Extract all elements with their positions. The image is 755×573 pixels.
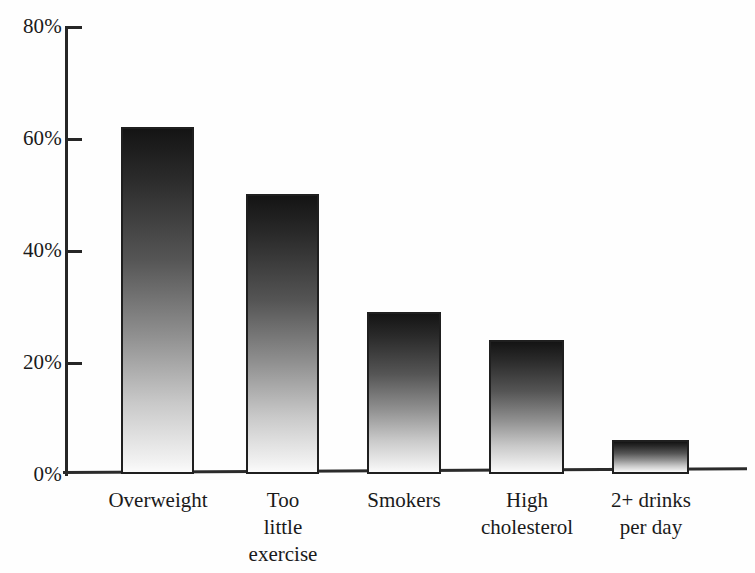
y-tick-80 xyxy=(65,26,82,29)
y-tick-label-40: 40% xyxy=(4,240,62,261)
bar-high-cholesterol xyxy=(489,340,564,474)
y-tick-label-80-wrap: 80% xyxy=(0,16,62,37)
bar-smokers xyxy=(367,312,441,474)
y-tick-label-20-wrap: 20% xyxy=(0,352,62,373)
bar-overweight xyxy=(121,127,194,474)
y-tick-label-60-wrap: 60% xyxy=(0,128,62,149)
y-tick-label-0-wrap: 0% xyxy=(0,464,62,485)
y-tick-label-40-wrap: 40% xyxy=(0,240,62,261)
y-tick-60 xyxy=(65,138,82,141)
y-tick-label-20: 20% xyxy=(4,352,62,373)
x-label-two-plus-drinks-per-day: 2+ drinks per day xyxy=(575,487,727,541)
y-tick-label-80: 80% xyxy=(4,16,62,37)
bar-two-plus-drinks-per-day xyxy=(612,440,689,474)
bar-too-little-exercise xyxy=(246,194,319,474)
plot-area: 80% 60% 40% 20% 0% Overweight Too little… xyxy=(0,0,755,573)
y-tick-label-0: 0% xyxy=(4,464,62,485)
y-tick-20 xyxy=(65,362,82,365)
y-tick-label-60: 60% xyxy=(4,128,62,149)
y-tick-40 xyxy=(65,250,82,253)
bar-chart: 80% 60% 40% 20% 0% Overweight Too little… xyxy=(0,0,755,573)
